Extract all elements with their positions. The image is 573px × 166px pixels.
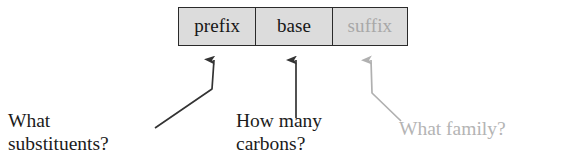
- box-cell-base: base: [255, 8, 332, 45]
- annotation-family: What family?: [399, 118, 506, 141]
- annotation-carbons: How many carbons?: [236, 110, 322, 156]
- annotation-substituents: What substituents?: [8, 110, 109, 156]
- box-cell-suffix: suffix: [333, 8, 407, 45]
- name-structure-box: prefix base suffix: [178, 7, 408, 46]
- diagram-canvas: prefix base suffix What substituents? Ho…: [0, 0, 573, 166]
- arrow-to-prefix: [155, 60, 214, 128]
- arrow-to-suffix: [371, 60, 401, 121]
- box-cell-prefix: prefix: [179, 8, 255, 45]
